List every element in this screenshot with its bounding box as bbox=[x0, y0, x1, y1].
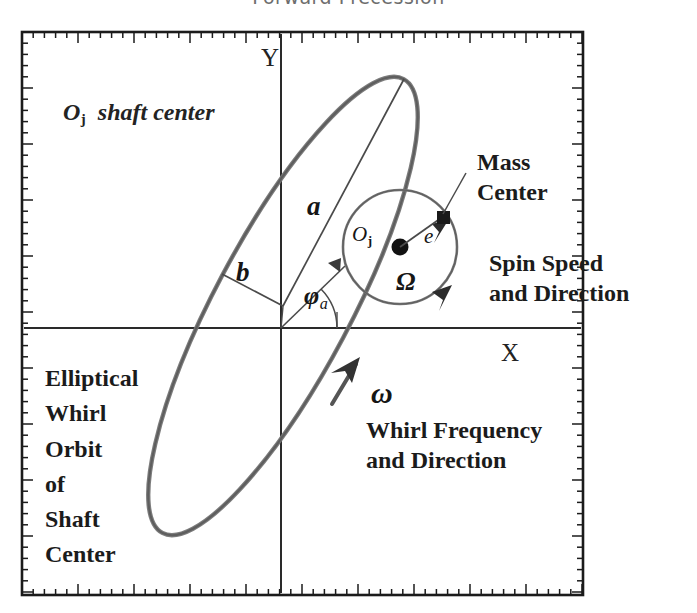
elliptical-orbit-line-4: of bbox=[45, 467, 138, 502]
whirl-frequency-direction-label: Whirl Frequency and Direction bbox=[366, 415, 542, 476]
shaft-center-label: Oj shaft center bbox=[63, 100, 214, 127]
whirl-frequency-line-1: Whirl Frequency bbox=[366, 415, 542, 445]
y-axis-label: Y bbox=[261, 44, 279, 71]
journal-center-symbol: O bbox=[352, 222, 367, 246]
eccentricity-label: e bbox=[424, 225, 433, 248]
mass-center-label: Mass Center bbox=[477, 147, 548, 208]
shaft-center-symbol: O bbox=[63, 99, 80, 125]
mass-center-leader-line bbox=[443, 173, 466, 214]
spin-speed-symbol: Ω bbox=[396, 268, 415, 296]
elliptical-orbit-line-6: Center bbox=[45, 537, 138, 572]
eccentricity-vector bbox=[400, 218, 441, 247]
elliptical-orbit-line-3: Orbit bbox=[45, 432, 138, 467]
shaft-center-subscript: j bbox=[81, 111, 86, 127]
shaft-center-text: shaft center bbox=[98, 99, 215, 125]
spin-direction-arrowheads bbox=[432, 219, 452, 311]
x-axis-label: X bbox=[501, 339, 519, 366]
spin-speed-direction-label: Spin Speed and Direction bbox=[489, 248, 629, 309]
whirl-frequency-symbol: ω bbox=[371, 377, 393, 409]
elliptical-orbit-label: Elliptical Whirl Orbit of Shaft Center bbox=[45, 361, 138, 573]
figure-forward-precession: Forward Precession bbox=[0, 0, 697, 613]
journal-center-subscript: j bbox=[368, 233, 372, 248]
phase-angle-label: φa bbox=[304, 282, 328, 312]
phase-angle-symbol: φ bbox=[304, 281, 319, 310]
elliptical-orbit-line-2: Whirl bbox=[45, 396, 138, 431]
mass-center-line-1: Mass bbox=[477, 147, 548, 177]
whirl-frequency-line-2: and Direction bbox=[366, 445, 542, 475]
mass-center-line-2: Center bbox=[477, 177, 548, 207]
journal-center-label: Oj bbox=[352, 223, 372, 248]
semi-major-axis-label: a bbox=[307, 192, 321, 221]
spin-speed-line-2: and Direction bbox=[489, 278, 629, 308]
elliptical-orbit-line-1: Elliptical bbox=[45, 361, 138, 396]
phase-angle-subscript: a bbox=[320, 295, 328, 312]
semi-minor-axis-label: b bbox=[236, 258, 250, 287]
elliptical-orbit-line-5: Shaft bbox=[45, 502, 138, 537]
spin-speed-line-1: Spin Speed bbox=[489, 248, 629, 278]
whirl-direction-arrowhead bbox=[331, 357, 360, 404]
